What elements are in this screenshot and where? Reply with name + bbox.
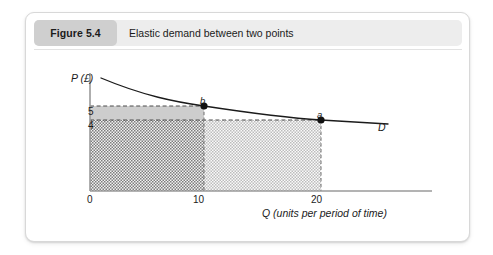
y-tick-label-5: 5 <box>88 107 94 117</box>
region-revenue-10-20 <box>204 120 321 191</box>
demand-curve-label: D <box>378 122 386 133</box>
chart-plot-area: P (£) 5 4 0 10 20 b a D Q (units per per… <box>26 13 470 242</box>
x-tick-label-10: 10 <box>193 195 204 205</box>
figure-card: Figure 5.4 Elastic demand between two po… <box>25 12 470 242</box>
x-tick-label-20: 20 <box>311 195 322 205</box>
screenshot-root: Figure 5.4 Elastic demand between two po… <box>0 0 493 255</box>
y-axis-label: P (£) <box>71 73 93 84</box>
y-tick-label-4: 4 <box>88 121 94 131</box>
point-label-a: a <box>317 110 322 120</box>
x-axis-label: Q (units per period of time) <box>262 208 387 219</box>
region-revenue-0-10 <box>90 120 204 191</box>
point-label-b: b <box>200 96 205 106</box>
region-price-band-4-5 <box>90 106 204 120</box>
x-tick-label-0: 0 <box>87 195 93 205</box>
